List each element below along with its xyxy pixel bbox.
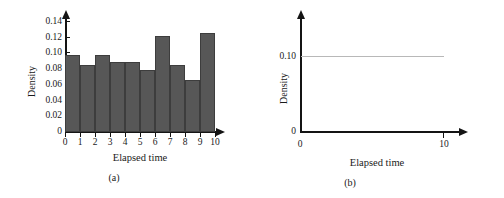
bar-bin-6-7 bbox=[155, 36, 170, 132]
bar-bin-5-6 bbox=[140, 70, 155, 132]
bar-bin-2-3 bbox=[95, 55, 110, 132]
y-ticklabel-a-002: 0.02 bbox=[30, 110, 62, 120]
x-ticklabel-b-10: 10 bbox=[436, 139, 452, 149]
x-ticklabel-a-1: 1 bbox=[73, 137, 87, 147]
x-tick-a-1 bbox=[80, 133, 81, 137]
y-ticklabel-a-0: 0 bbox=[44, 126, 62, 136]
y-axis-arrow-b bbox=[297, 10, 305, 19]
bar-bin-9-10 bbox=[200, 33, 215, 132]
panel-caption-b: (b) bbox=[224, 177, 476, 188]
y-axis-line-b bbox=[300, 18, 302, 132]
panel-caption-a: (a) bbox=[0, 172, 240, 183]
x-axis-title-b: Elapsed time bbox=[332, 157, 422, 168]
x-tick-a-8 bbox=[185, 133, 186, 137]
y-ticklabel-a-010: 0.10 bbox=[30, 47, 62, 57]
x-ticklabel-a-6: 6 bbox=[148, 137, 162, 147]
x-ticklabel-a-9: 9 bbox=[193, 137, 207, 147]
x-tick-a-2 bbox=[95, 133, 96, 137]
x-axis-title-a: Elapsed time bbox=[95, 152, 185, 163]
x-ticklabel-a-7: 7 bbox=[163, 137, 177, 147]
x-ticklabel-b-0: 0 bbox=[293, 139, 307, 149]
uniform-density-line bbox=[301, 56, 444, 57]
bar-bin-4-5 bbox=[125, 62, 140, 132]
y-ticklabel-b-0: 0 bbox=[280, 126, 296, 136]
x-axis-arrow-b bbox=[459, 128, 468, 136]
bar-bin-8-9 bbox=[185, 80, 200, 132]
figure-container: 0 0.02 0.04 0.06 0.08 0.10 0.12 0.14 Den… bbox=[0, 0, 504, 198]
y-ticklabel-a-012: 0.12 bbox=[30, 32, 62, 42]
x-ticklabel-a-3: 3 bbox=[103, 137, 117, 147]
x-tick-a-0 bbox=[65, 133, 66, 137]
x-axis-arrow-a bbox=[216, 128, 225, 136]
bar-bin-3-4 bbox=[110, 62, 125, 132]
x-tick-a-4 bbox=[125, 133, 126, 137]
x-ticklabel-a-8: 8 bbox=[178, 137, 192, 147]
x-tick-a-3 bbox=[110, 133, 111, 137]
x-ticklabel-a-5: 5 bbox=[133, 137, 147, 147]
x-ticklabel-a-2: 2 bbox=[88, 137, 102, 147]
panel-a-histogram: 0 0.02 0.04 0.06 0.08 0.10 0.12 0.14 Den… bbox=[0, 0, 252, 198]
x-axis-line-b bbox=[300, 131, 460, 133]
x-tick-a-6 bbox=[155, 133, 156, 137]
x-ticklabel-a-10: 10 bbox=[208, 137, 222, 147]
panel-b-uniform-density: 0 0.10 Density 0 10 Elapsed time (b) bbox=[252, 0, 504, 198]
x-ticklabel-a-4: 4 bbox=[118, 137, 132, 147]
y-axis-title-b: Density bbox=[278, 73, 289, 104]
x-tick-b-10 bbox=[443, 133, 444, 138]
y-axis-title-a: Density bbox=[26, 66, 37, 97]
x-tick-a-5 bbox=[140, 133, 141, 137]
bar-bin-0-1 bbox=[65, 55, 80, 132]
bar-bin-7-8 bbox=[170, 65, 185, 132]
bar-bin-1-2 bbox=[80, 65, 95, 132]
x-tick-a-10 bbox=[215, 133, 216, 137]
y-axis-arrow-a bbox=[62, 10, 70, 19]
x-tick-a-7 bbox=[170, 133, 171, 137]
x-tick-a-9 bbox=[200, 133, 201, 137]
y-ticklabel-b-010: 0.10 bbox=[264, 51, 296, 61]
y-ticklabel-a-014: 0.14 bbox=[30, 16, 62, 26]
histogram-bars-a bbox=[65, 22, 215, 132]
x-ticklabel-a-0: 0 bbox=[58, 137, 72, 147]
